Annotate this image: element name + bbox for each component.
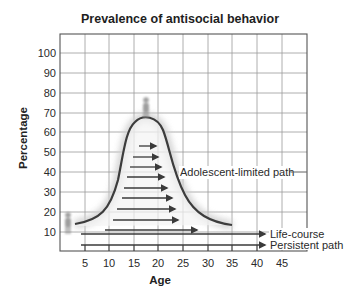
x-tick: 20 (152, 257, 164, 269)
child-figure-icon (65, 212, 71, 234)
x-tick: 45 (276, 257, 288, 269)
chart-canvas: 100 90 80 70 60 50 40 30 20 10 5 10 15 2… (0, 0, 360, 301)
y-axis-ticks: 100 90 80 70 60 50 40 30 20 10 (38, 47, 56, 238)
x-tick: 30 (202, 257, 214, 269)
y-tick: 20 (44, 206, 56, 218)
x-tick: 10 (103, 257, 115, 269)
y-tick: 100 (38, 47, 56, 59)
lower-arrow-ticks (85, 245, 257, 251)
y-tick: 40 (44, 166, 56, 178)
x-tick: 25 (177, 257, 189, 269)
x-tick: 40 (251, 257, 263, 269)
y-tick: 80 (44, 87, 56, 99)
y-tick: 60 (44, 126, 56, 138)
x-axis-ticks: 5 10 15 20 25 30 35 40 45 (82, 257, 288, 269)
y-tick: 70 (44, 107, 56, 119)
annotation-persistent-path: Persistent path (270, 239, 343, 251)
y-tick: 10 (44, 226, 56, 238)
annotation-adolescent-limited: Adolescent-limited path (180, 166, 294, 178)
y-tick: 30 (44, 186, 56, 198)
y-tick: 50 (44, 146, 56, 158)
x-tick: 5 (82, 257, 88, 269)
x-tick: 35 (226, 257, 238, 269)
y-tick: 90 (44, 67, 56, 79)
x-tick: 15 (128, 257, 140, 269)
